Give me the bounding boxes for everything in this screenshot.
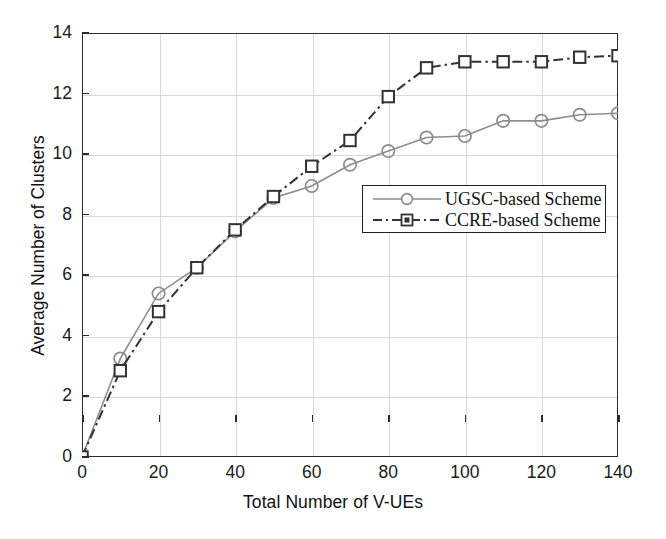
data-point-marker-ccre (383, 91, 394, 102)
data-point-marker-ugsc (574, 109, 586, 121)
x-tick-label: 80 (358, 462, 418, 483)
x-tick-label: 100 (435, 462, 495, 483)
data-point-marker-ugsc (382, 145, 394, 157)
x-tick-mark (541, 415, 543, 422)
x-tick-label: 120 (511, 462, 571, 483)
y-tick-mark (82, 93, 89, 95)
data-point-marker-ccre (497, 56, 508, 67)
data-point-marker-ugsc (612, 107, 618, 119)
y-tick-mark (82, 32, 89, 34)
data-point-marker-ccre (459, 56, 470, 67)
data-point-marker-ugsc (420, 131, 432, 143)
data-point-marker-ugsc (535, 115, 547, 127)
y-tick-mark (82, 395, 89, 397)
data-point-marker-ccre (574, 52, 585, 63)
data-point-marker-ccre (536, 56, 547, 67)
legend-label-ccre: CCRE-based Scheme (445, 210, 600, 230)
y-axis-title: Average Number of Clusters (28, 36, 49, 456)
data-point-marker-ugsc (344, 159, 356, 171)
data-point-marker-ugsc (152, 287, 164, 299)
x-tick-mark (388, 415, 390, 422)
data-point-marker-ccre (115, 365, 126, 376)
legend-entry-ccre: CCRE-based Scheme (371, 209, 605, 230)
legend-label-ugsc: UGSC-based Scheme (445, 189, 601, 209)
data-point-marker-ccre (612, 50, 618, 61)
y-tick-mark (82, 335, 89, 337)
x-tick-label: 20 (129, 462, 189, 483)
y-tick-mark (82, 214, 89, 216)
legend-sample-ugsc (371, 189, 443, 209)
data-point-marker-ugsc (306, 180, 318, 192)
data-point-marker-ccre (421, 62, 432, 73)
data-point-marker-ugsc (497, 115, 509, 127)
x-tick-mark (618, 415, 620, 422)
data-point-marker-ccre (306, 161, 317, 172)
legend-sample-ccre (371, 210, 443, 230)
x-tick-label: 40 (205, 462, 265, 483)
data-layer (82, 33, 618, 457)
y-tick-mark (82, 274, 89, 276)
data-point-marker-ccre (191, 262, 202, 273)
x-tick-mark (235, 415, 237, 422)
data-point-marker-ugsc (459, 130, 471, 142)
legend: UGSC-based Scheme CCRE-based Scheme (362, 185, 606, 233)
x-axis-title: Total Number of V-UEs (0, 492, 666, 513)
figure: 02040608010012014002468101214 Total Numb… (0, 0, 666, 539)
data-point-marker-ccre (229, 224, 240, 235)
x-tick-mark (312, 415, 314, 422)
data-point-marker-ccre (268, 191, 279, 202)
legend-entry-ugsc: UGSC-based Scheme (371, 188, 605, 209)
x-tick-label: 140 (588, 462, 648, 483)
data-point-marker-ccre (344, 135, 355, 146)
x-tick-mark (465, 415, 467, 422)
x-tick-mark (82, 415, 84, 422)
x-tick-label: 60 (282, 462, 342, 483)
y-tick-mark (82, 153, 89, 155)
data-point-marker-ccre (153, 306, 164, 317)
y-tick-mark (82, 456, 89, 458)
x-tick-mark (159, 415, 161, 422)
